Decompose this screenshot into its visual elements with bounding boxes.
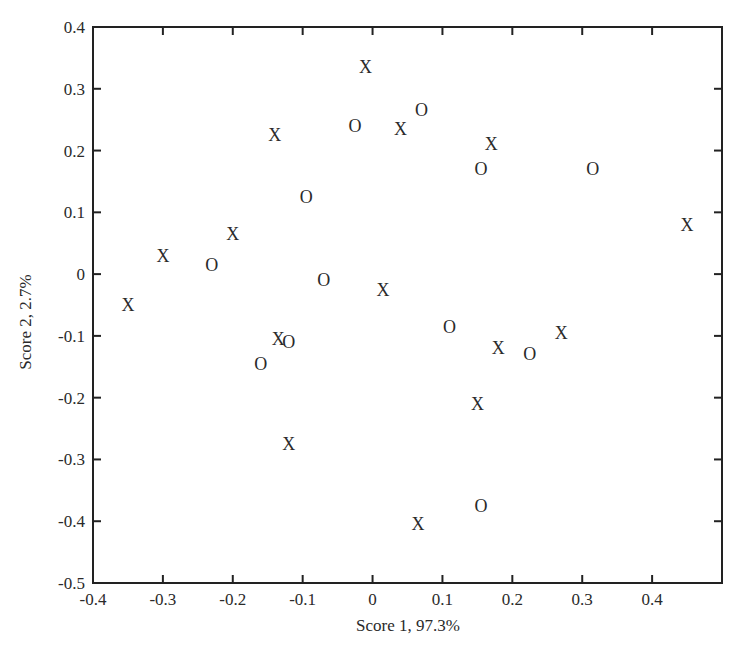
x-tick-label: 0.2 <box>502 590 523 609</box>
o-marker: O <box>415 100 428 120</box>
x-marker: X <box>681 215 694 235</box>
x-marker: X <box>282 434 295 454</box>
x-tick-label: -0.3 <box>149 590 176 609</box>
scatter-plot: -0.4-0.3-0.2-0.100.10.20.30.4 0.40.30.20… <box>0 0 731 647</box>
plot-area <box>93 27 722 583</box>
y-tick-label: 0.1 <box>64 203 85 222</box>
x-marker: X <box>411 514 424 534</box>
o-marker: O <box>443 317 456 337</box>
x-marker: X <box>359 57 372 77</box>
x-marker: X <box>555 323 568 343</box>
o-marker: O <box>586 159 599 179</box>
x-tick-label: 0.1 <box>432 590 453 609</box>
y-tick-label: -0.5 <box>58 574 85 593</box>
data-markers: XXXXXXXXXXXXXXXOOOOOOOOOOOO <box>121 57 693 534</box>
y-tick-label: -0.4 <box>58 512 85 531</box>
o-marker: O <box>523 344 536 364</box>
y-tick-label: 0 <box>77 265 86 284</box>
o-marker: O <box>282 332 295 352</box>
x-marker: X <box>121 295 134 315</box>
x-tick-label: -0.1 <box>289 590 316 609</box>
x-tick-label: 0.3 <box>572 590 593 609</box>
o-marker: O <box>349 116 362 136</box>
x-marker: X <box>156 246 169 266</box>
y-tick-label: 0.3 <box>64 80 85 99</box>
y-tick-label: 0.2 <box>64 142 85 161</box>
y-axis-ticks: 0.40.30.20.10-0.1-0.2-0.3-0.4-0.5 <box>58 18 722 593</box>
y-axis-label: Score 2, 2.7% <box>16 274 35 369</box>
o-marker: O <box>474 496 487 516</box>
x-marker: X <box>394 119 407 139</box>
y-tick-label: -0.3 <box>58 450 85 469</box>
y-tick-label: -0.2 <box>58 389 85 408</box>
o-marker: O <box>300 187 313 207</box>
y-tick-label: -0.1 <box>58 327 85 346</box>
x-marker: X <box>485 134 498 154</box>
x-tick-label: 0.4 <box>641 590 663 609</box>
o-marker: O <box>254 354 267 374</box>
x-marker: X <box>377 280 390 300</box>
x-marker: X <box>226 224 239 244</box>
x-tick-label: 0 <box>368 590 377 609</box>
o-marker: O <box>317 270 330 290</box>
x-marker: X <box>492 338 505 358</box>
x-marker: X <box>471 394 484 414</box>
y-tick-label: 0.4 <box>64 18 86 37</box>
o-marker: O <box>205 255 218 275</box>
o-marker: O <box>474 159 487 179</box>
plot-frame <box>93 27 722 583</box>
x-axis-label: Score 1, 97.3% <box>356 616 460 635</box>
x-tick-label: -0.2 <box>219 590 246 609</box>
x-marker: X <box>268 125 281 145</box>
x-axis-ticks: -0.4-0.3-0.2-0.100.10.20.30.4 <box>80 27 664 609</box>
